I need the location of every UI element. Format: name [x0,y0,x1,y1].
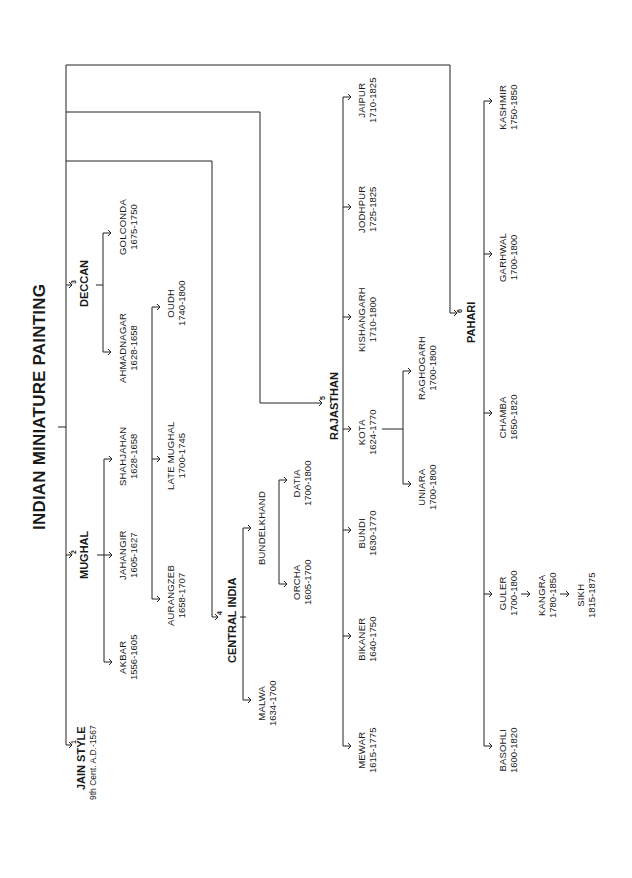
substyle-sikh: SIKH1815-1875 [575,573,597,618]
substyle-aurangzeb: AURANGZEB1658-1707 [165,565,187,626]
school-number: 2 [70,550,77,554]
school-number: 5 [319,396,326,400]
substyle-shahjahan: SHAHJAHAN1628-1658 [117,427,139,486]
substyle-kishangarh: KISHANGARH1710-1800 [356,287,378,352]
substyle-kashmir: KASHMIR1750-1850 [497,85,519,130]
substyle-kangra: KANGRA1780-1850 [536,573,558,618]
substyle-malwa: MALWA1634-1700 [256,681,278,726]
substyle-uniara: UNIARA1700-1800 [416,465,438,510]
substyle-jahangir: JAHANGIR1605-1627 [117,530,139,580]
substyle-jodhpur: JODHPUR1725-1825 [356,186,378,233]
substyle-orcha: ORCHA1605-1700 [291,560,313,605]
substyle-bikaner: BIKANER1640-1750 [356,617,378,662]
school-central-india: CENTRAL INDIA [226,578,238,663]
substyle-golconda: GOLCONDA1675-1750 [117,199,139,255]
substyle-guler: GULER1700-1800 [497,571,519,616]
school-mughal: MUGHAL [78,531,90,579]
substyle-raghogarh: RAGHOGARH1700-1800 [416,336,438,400]
substyle-jaipur: JAIPUR1710-1825 [356,78,378,123]
substyle-bundelkhand: BUNDELKHAND [256,491,267,565]
school-deccan: DECCAN [78,260,90,307]
school-pahari: PAHARI [465,302,477,343]
diagram-title: INDIAN MINIATURE PAINTING [30,284,50,530]
substyle-basohli: BASOHLI1600-1820 [497,728,519,773]
substyle-akbar: AKBAR1556-1605 [117,635,139,680]
school-number: 6 [456,309,463,313]
substyle-late-mughal: LATE MUGHAL1700-1745 [165,421,187,490]
substyle-mewar: MEWAR1615-1775 [356,728,378,773]
school-number: 4 [216,611,223,615]
substyle-oudh: OUDH1740-1800 [165,281,187,326]
substyle-datia: DATIA1700-1800 [291,461,313,506]
substyle-garhwal: GARHWAL1700-1800 [497,233,519,282]
school-jain: JAIN STYLE [75,726,87,790]
substyle-chamba: CHAMBA1650-1820 [497,395,519,440]
substyle-kota: KOTA1624-1770 [356,410,378,455]
substyle-ahmadnagar: AHMADNAGAR1628-1658 [117,313,139,383]
school-rajasthan: RAJASTHAN [328,372,340,440]
substyle-bundi: BUNDI1630-1770 [356,511,378,556]
school-jain-dates: 9th Cent. A.D.-1567 [88,725,99,800]
school-number: 3 [70,280,77,284]
